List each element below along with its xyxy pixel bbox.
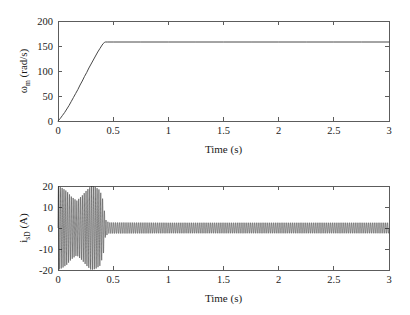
y-axis-title: isD (A) xyxy=(17,213,32,243)
x-axis-title: Time (s) xyxy=(205,292,243,305)
y-tick-label: 20 xyxy=(43,181,54,192)
y-tick-label: -20 xyxy=(39,265,53,276)
y-tick-label: 200 xyxy=(37,16,53,27)
x-tick-label: 2.5 xyxy=(327,125,340,136)
y-axis-title: ωm (rad/s) xyxy=(17,48,32,93)
figure-root: 00.511.522.53050100150200Time (s)ωm (rad… xyxy=(0,0,410,315)
y-tick-label: 150 xyxy=(37,41,53,52)
x-tick-label: 3 xyxy=(386,274,391,285)
stator-current-plot: 00.511.522.53-20-1001020Time (s)isD (A) xyxy=(0,160,410,315)
plot-frame xyxy=(58,21,389,121)
x-tick-label: 0.5 xyxy=(107,274,120,285)
y-tick-label: 0 xyxy=(48,223,53,234)
y-tick-label: 50 xyxy=(43,91,54,102)
y-tick-label: 10 xyxy=(43,202,54,213)
x-tick-label: 2 xyxy=(276,125,281,136)
x-tick-label: 2 xyxy=(276,274,281,285)
x-tick-label: 1 xyxy=(166,274,171,285)
chart-panel-rotor-speed: 00.511.522.53050100150200Time (s)ωm (rad… xyxy=(0,0,410,160)
rotor-speed-plot: 00.511.522.53050100150200Time (s)ωm (rad… xyxy=(0,0,410,160)
x-tick-label: 1.5 xyxy=(217,125,230,136)
rotor-speed-trace xyxy=(58,42,389,121)
x-tick-label: 0 xyxy=(55,125,60,136)
x-axis-title: Time (s) xyxy=(205,143,243,156)
stator-current-trace xyxy=(58,186,389,270)
x-tick-label: 0 xyxy=(55,274,60,285)
y-tick-label: -10 xyxy=(39,244,53,255)
y-tick-label: 0 xyxy=(48,116,53,127)
chart-panel-stator-current: 00.511.522.53-20-1001020Time (s)isD (A) xyxy=(0,160,410,315)
x-tick-label: 2.5 xyxy=(327,274,340,285)
y-tick-label: 100 xyxy=(37,66,53,77)
x-tick-label: 3 xyxy=(386,125,391,136)
x-tick-label: 1 xyxy=(166,125,171,136)
x-tick-label: 1.5 xyxy=(217,274,230,285)
x-tick-label: 0.5 xyxy=(107,125,120,136)
